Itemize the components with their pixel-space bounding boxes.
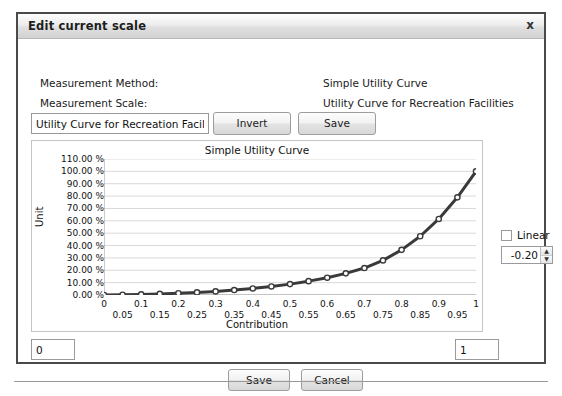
chart-x-tick: 0.7 (357, 299, 371, 309)
chart-x-tick: 0.75 (373, 310, 393, 320)
chart-x-tick: 0.05 (113, 310, 133, 320)
linear-checkbox-row[interactable]: Linear (501, 229, 550, 241)
exponent-stepper[interactable]: -0.20 ▲ ▼ (501, 246, 553, 264)
chart-plot-area (104, 159, 476, 295)
dialog-save-button[interactable]: Save (228, 369, 290, 391)
measurement-scale-label: Measurement Scale: (40, 97, 147, 109)
range-min-input[interactable] (31, 339, 75, 360)
linear-checkbox[interactable] (501, 230, 512, 241)
chart-y-tick: 50.00 % (67, 228, 104, 238)
chart-x-tick: 0.35 (224, 310, 244, 320)
close-icon[interactable]: x (526, 17, 534, 33)
screen: Edit current scale x Measurement Method:… (0, 0, 562, 396)
chart-x-tick: 0.55 (299, 310, 319, 320)
save-curve-button[interactable]: Save (298, 112, 376, 135)
exponent-stepper-buttons[interactable]: ▲ ▼ (540, 247, 552, 263)
chart-y-tick: 100.00 % (61, 166, 104, 176)
measurement-method-label: Measurement Method: (40, 77, 158, 89)
chart-x-tick-labels-minor: 0.050.150.250.350.450.550.650.750.850.95 (32, 310, 482, 322)
chart-y-tick: 40.00 % (67, 241, 104, 251)
chart-y-tick: 60.00 % (67, 216, 104, 226)
dialog-titlebar: Edit current scale x (18, 14, 544, 39)
chart-y-tick: 110.00 % (61, 154, 104, 164)
dialog-title: Edit current scale (28, 19, 146, 33)
chart-x-tick: 0.3 (208, 299, 222, 309)
dialog-cancel-button[interactable]: Cancel (301, 369, 363, 391)
chart-x-tick: 0.45 (261, 310, 281, 320)
page-divider (14, 381, 548, 382)
invert-button[interactable]: Invert (213, 112, 291, 135)
edit-scale-dialog: Edit current scale x Measurement Method:… (16, 12, 546, 364)
chart-y-tick: 90.00 % (67, 179, 104, 189)
chart-y-tick: 80.00 % (67, 191, 104, 201)
chart-x-tick: 0.9 (432, 299, 446, 309)
chart-x-tick: 0.2 (171, 299, 185, 309)
range-max-input[interactable] (455, 339, 499, 360)
chart-x-tick: 0.15 (150, 310, 170, 320)
stepper-down-icon[interactable]: ▼ (541, 256, 552, 264)
chart-x-tick: 0.4 (246, 299, 260, 309)
chart-x-tick: 1 (473, 299, 479, 309)
chart-y-tick: 70.00 % (67, 203, 104, 213)
measurement-method-value: Simple Utility Curve (323, 77, 427, 89)
chart-x-tick: 0.6 (320, 299, 334, 309)
chart-x-tick: 0.65 (336, 310, 356, 320)
exponent-value[interactable]: -0.20 (502, 249, 540, 261)
chart-y-tick: 20.00 % (67, 265, 104, 275)
chart-x-tick: 0.8 (394, 299, 408, 309)
measurement-scale-value: Utility Curve for Recreation Facilities (323, 97, 514, 109)
utility-curve-chart: Simple Utility Curve Unit Contribution 0… (31, 140, 483, 332)
chart-x-tick: 0.85 (410, 310, 430, 320)
chart-x-tick: 0.95 (447, 310, 467, 320)
chart-x-tick: 0 (101, 299, 107, 309)
scale-name-input[interactable] (31, 113, 209, 134)
chart-x-tick: 0.1 (134, 299, 148, 309)
chart-y-axis-label: Unit (34, 207, 45, 227)
linear-label: Linear (517, 229, 550, 241)
chart-x-tick: 0.5 (283, 299, 297, 309)
chart-y-tick: 30.00 % (67, 253, 104, 263)
chart-x-tick: 0.25 (187, 310, 207, 320)
chart-y-tick: 10.00 % (67, 278, 104, 288)
stepper-up-icon[interactable]: ▲ (541, 247, 552, 256)
dialog-body: Measurement Method: Measurement Scale: S… (18, 39, 544, 365)
